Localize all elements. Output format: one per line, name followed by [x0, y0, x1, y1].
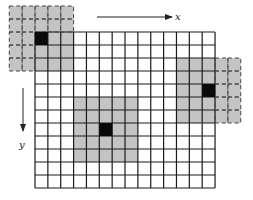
middle-window-cell — [125, 110, 138, 123]
middle-window-cell — [74, 136, 87, 149]
middle-window-cell — [99, 149, 112, 162]
top-left-window-cell — [22, 19, 35, 32]
middle-window-cell — [86, 110, 99, 123]
top-left-window-cell — [48, 45, 61, 58]
right-window-cell — [228, 110, 241, 123]
right-window-cell — [228, 84, 241, 97]
middle-window-cell — [74, 97, 87, 110]
right-window-cell — [202, 97, 215, 110]
top-left-window-cell — [9, 45, 22, 58]
right-window-cell — [189, 84, 202, 97]
top-left-window-cell — [9, 32, 22, 45]
right-window-cell — [202, 110, 215, 123]
middle-window-cell — [86, 123, 99, 136]
right-window-center-pixel — [202, 84, 215, 97]
top-left-window-cell — [9, 19, 22, 32]
middle-window-cell — [125, 149, 138, 162]
right-window-cell — [176, 58, 189, 71]
middle-window-cell — [112, 110, 125, 123]
middle-window-cell — [74, 123, 87, 136]
top-left-window-cell — [22, 6, 35, 19]
top-left-window-center-pixel — [35, 32, 48, 45]
middle-window-cell — [99, 97, 112, 110]
middle-window-center-pixel — [99, 123, 112, 136]
x-axis-label: x — [175, 11, 181, 22]
right-window-cell — [176, 110, 189, 123]
right-window-cell — [176, 71, 189, 84]
top-left-window-cell — [48, 19, 61, 32]
top-left-window-cell — [35, 19, 48, 32]
right-window-cell — [176, 84, 189, 97]
top-left-window-cell — [61, 32, 74, 45]
top-left-window-cell — [48, 6, 61, 19]
top-left-window-cell — [61, 45, 74, 58]
top-left-window-cell — [22, 45, 35, 58]
middle-window-cell — [99, 110, 112, 123]
top-left-window-cell — [61, 19, 74, 32]
top-left-window-cell — [22, 58, 35, 71]
right-window-cell — [215, 84, 228, 97]
right-window-cell — [228, 97, 241, 110]
middle-window-cell — [86, 97, 99, 110]
right-window-cell — [215, 58, 228, 71]
top-left-window-cell — [61, 58, 74, 71]
middle-window-cell — [125, 136, 138, 149]
middle-window-cell — [112, 123, 125, 136]
middle-window-cell — [99, 136, 112, 149]
top-left-window-cell — [48, 58, 61, 71]
right-window-cell — [228, 71, 241, 84]
right-window-cell — [228, 58, 241, 71]
top-left-window-cell — [9, 6, 22, 19]
top-left-window-cell — [35, 58, 48, 71]
right-window-cell — [189, 71, 202, 84]
right-window-cell — [202, 58, 215, 71]
right-window-cell — [215, 97, 228, 110]
right-window-cell — [189, 58, 202, 71]
top-left-window-cell — [9, 58, 22, 71]
middle-window-cell — [74, 149, 87, 162]
middle-window-cell — [86, 149, 99, 162]
middle-window-cell — [112, 97, 125, 110]
middle-window-cell — [125, 97, 138, 110]
top-left-window-cell — [35, 45, 48, 58]
top-left-window-cell — [48, 32, 61, 45]
middle-window-cell — [86, 136, 99, 149]
right-window-cell — [176, 97, 189, 110]
right-window-cell — [215, 71, 228, 84]
top-left-window-cell — [22, 32, 35, 45]
y-axis-label: y — [18, 139, 25, 150]
top-left-window-cell — [35, 6, 48, 19]
middle-window-cell — [74, 110, 87, 123]
middle-window-cell — [125, 123, 138, 136]
right-window-cell — [189, 97, 202, 110]
right-window-cell — [189, 110, 202, 123]
neighborhood-grid-diagram: x y — [0, 0, 253, 200]
middle-window-cell — [112, 136, 125, 149]
top-left-window-cell — [61, 6, 74, 19]
middle-window-cell — [112, 149, 125, 162]
right-window-cell — [215, 110, 228, 123]
right-window-cell — [202, 71, 215, 84]
